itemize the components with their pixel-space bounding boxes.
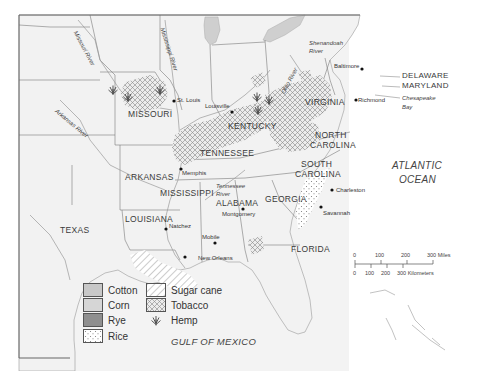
state-label-missouri: MISSOURI bbox=[128, 110, 172, 119]
tobacco-swatch bbox=[146, 298, 166, 312]
state-label-arkansas: ARKANSAS bbox=[125, 173, 174, 182]
state-label-north-carolina-1: NORTH bbox=[315, 131, 347, 140]
legend-label: Tobacco bbox=[171, 300, 208, 311]
sugar-cane-swatch bbox=[146, 283, 166, 297]
scale-bar bbox=[355, 260, 433, 268]
bahamas bbox=[370, 290, 445, 350]
scale-km-300: 300 Kilometers bbox=[397, 270, 434, 276]
legend-label: Corn bbox=[108, 300, 130, 311]
state-label-virginia: VIRGINIA bbox=[305, 98, 345, 107]
legend-label: Rye bbox=[108, 315, 126, 326]
state-label-north-carolina-2: CAROLINA bbox=[310, 141, 356, 150]
legend-item-hemp: Hemp bbox=[146, 313, 198, 327]
scale-miles-0: 0 bbox=[353, 252, 356, 258]
city-label-mobile: Mobile bbox=[202, 234, 220, 240]
city-label-montgomery: Montgomery bbox=[222, 211, 255, 217]
legend-label: Sugar cane bbox=[171, 285, 222, 296]
state-label-texas: TEXAS bbox=[60, 226, 89, 235]
city-label-memphis: Memphis bbox=[182, 170, 206, 176]
city-label-st-louis: St. Louis bbox=[177, 97, 200, 103]
river-label-shenandoah-2: River bbox=[309, 48, 323, 54]
state-label-alabama: ALABAMA bbox=[216, 199, 258, 208]
state-label-south-carolina-2: CAROLINA bbox=[295, 170, 341, 179]
state-label-georgia: GEORGIA bbox=[265, 195, 307, 204]
scale-km-200: 200 bbox=[381, 270, 390, 276]
city-label-charleston: Charleston bbox=[336, 187, 365, 193]
cotton-swatch bbox=[83, 283, 103, 297]
state-label-mississippi: MISSISSIPPI bbox=[160, 189, 214, 198]
rye-swatch bbox=[83, 313, 103, 327]
water-label-chesapeake-1: Chesapeake bbox=[402, 95, 436, 101]
state-label-kentucky: KENTUCKY bbox=[228, 122, 277, 131]
scale-km-0: 0 bbox=[353, 270, 356, 276]
hemp-icon bbox=[146, 313, 166, 327]
city-label-savannah: Savannah bbox=[323, 210, 350, 216]
legend-item-rye: Rye bbox=[83, 313, 126, 327]
river-label-tennessee-1: Tennessee bbox=[216, 183, 245, 189]
scale-miles-300: 300 Miles bbox=[427, 252, 451, 258]
legend-item-sugar-cane: Sugar cane bbox=[146, 283, 222, 297]
state-label-louisiana: LOUISIANA bbox=[125, 215, 173, 224]
river-label-shenandoah-1: Shenandoah bbox=[309, 40, 343, 46]
scale-km-100: 100 bbox=[365, 270, 374, 276]
scale-miles-200: 200 bbox=[401, 252, 410, 258]
state-label-south-carolina-1: SOUTH bbox=[301, 160, 332, 169]
state-label-maryland: MARYLAND bbox=[402, 82, 449, 90]
legend-label: Cotton bbox=[108, 285, 137, 296]
river-label-tennessee-2: River bbox=[216, 191, 230, 197]
gulf-label: GULF OF MEXICO bbox=[171, 337, 256, 347]
scale-miles-100: 100 bbox=[375, 252, 384, 258]
rice-swatch bbox=[83, 329, 103, 343]
state-label-tennessee: TENNESSEE bbox=[200, 149, 254, 158]
city-label-louisville: Louisville bbox=[205, 103, 230, 109]
ocean-label-atlantic-2: OCEAN bbox=[399, 175, 436, 185]
city-label-baltimore: Baltimore bbox=[334, 63, 359, 69]
city-label-richmond: Richmond bbox=[358, 97, 385, 103]
legend-label: Hemp bbox=[171, 315, 198, 326]
legend-item-corn: Corn bbox=[83, 298, 130, 312]
legend-item-rice: Rice bbox=[83, 329, 128, 343]
state-label-florida: FLORIDA bbox=[291, 245, 330, 254]
corn-swatch bbox=[83, 298, 103, 312]
state-label-delaware: DELAWARE bbox=[402, 72, 449, 80]
ocean-label-atlantic-1: ATLANTIC bbox=[392, 161, 442, 171]
water-label-chesapeake-2: Bay bbox=[402, 104, 412, 110]
legend-label: Rice bbox=[108, 331, 128, 342]
city-label-new-orleans: New Orleans bbox=[198, 255, 233, 261]
legend-item-tobacco: Tobacco bbox=[146, 298, 208, 312]
legend-item-cotton: Cotton bbox=[83, 283, 137, 297]
city-label-natchez: Natchez bbox=[169, 223, 191, 229]
